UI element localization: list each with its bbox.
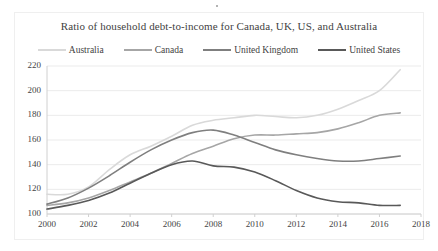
x-tick-label-2018: 2018 xyxy=(404,219,438,229)
y-tick-label-120: 120 xyxy=(15,183,41,193)
y-tick-label-220: 220 xyxy=(15,60,41,70)
plot-area xyxy=(0,0,438,251)
series-line-canada xyxy=(47,113,400,205)
gridlines xyxy=(47,66,421,214)
x-tick-label-2004: 2004 xyxy=(113,219,147,229)
y-tick-label-200: 200 xyxy=(15,85,41,95)
x-tick-label-2000: 2000 xyxy=(30,219,64,229)
plot-svg xyxy=(0,0,438,251)
series-line-united-states xyxy=(47,161,400,209)
x-tick-label-2006: 2006 xyxy=(155,219,189,229)
y-tick-label-160: 160 xyxy=(15,134,41,144)
x-tick-label-2010: 2010 xyxy=(238,219,272,229)
x-tick-label-2002: 2002 xyxy=(72,219,106,229)
x-tick-label-2016: 2016 xyxy=(362,219,396,229)
x-tick-label-2008: 2008 xyxy=(196,219,230,229)
y-tick-label-140: 140 xyxy=(15,159,41,169)
x-tick-label-2014: 2014 xyxy=(321,219,355,229)
chart-figure: Ratio of household debt-to-income for Ca… xyxy=(0,0,438,251)
y-tick-label-100: 100 xyxy=(15,208,41,218)
x-tick-label-2012: 2012 xyxy=(279,219,313,229)
y-tick-label-180: 180 xyxy=(15,109,41,119)
